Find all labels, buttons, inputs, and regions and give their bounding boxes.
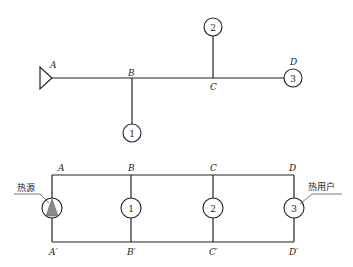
point-c-prime-label: C′ bbox=[209, 247, 218, 257]
heat-user-label: 热用户 bbox=[308, 181, 335, 192]
point-a-label: A bbox=[49, 60, 57, 70]
top-branch-network: 1 2 3 A B C D bbox=[40, 18, 302, 142]
point-d-label: D bbox=[289, 57, 297, 67]
source-triangle-icon bbox=[40, 67, 52, 89]
point-b-prime-label: B′ bbox=[126, 247, 136, 257]
point-d-label: D bbox=[288, 163, 296, 173]
point-c-label: C bbox=[210, 163, 217, 173]
heating-network-diagrams: 1 2 3 A B C D 1 2 3 A B C D bbox=[0, 0, 353, 267]
point-d-prime-label: D′ bbox=[288, 247, 298, 257]
user-2-label: 2 bbox=[210, 204, 216, 214]
heat-source-label: 热源 bbox=[17, 182, 35, 193]
point-a-label: A bbox=[57, 163, 65, 173]
node-2-label: 2 bbox=[210, 23, 216, 33]
point-b-label: B bbox=[127, 68, 135, 78]
heat-user-leader-diag bbox=[300, 194, 312, 204]
node-3-label: 3 bbox=[290, 74, 296, 84]
point-c-label: C bbox=[210, 82, 217, 92]
point-b-label: B bbox=[127, 163, 135, 173]
user-3-label: 3 bbox=[291, 204, 297, 214]
user-1-label: 1 bbox=[128, 204, 134, 214]
point-a-prime-label: A′ bbox=[48, 247, 58, 257]
node-1-label: 1 bbox=[129, 129, 135, 139]
bottom-loop-network: 1 2 3 A B C D A′ B′ C′ D′ 热源 热用户 bbox=[14, 163, 342, 257]
